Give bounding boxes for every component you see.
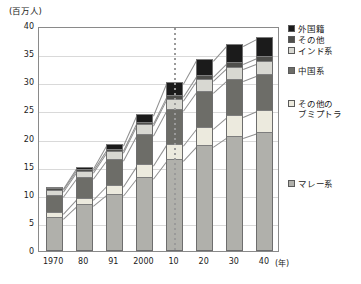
bar-segment — [136, 124, 153, 134]
bar-30 — [226, 27, 243, 251]
bar-segment — [76, 198, 93, 204]
bar-segment — [106, 144, 123, 149]
bar-segment — [46, 187, 63, 188]
bar-segment — [256, 110, 273, 132]
y-axis-tick-label: 15 — [8, 164, 34, 172]
bar-segment — [46, 188, 63, 190]
bar-segment — [106, 149, 123, 151]
bar-segment — [196, 79, 213, 91]
y-axis-tick-label: 35 — [8, 51, 34, 59]
connector-line — [213, 81, 227, 94]
y-axis-tick-label: 20 — [8, 136, 34, 144]
bar-segment — [226, 44, 243, 62]
legend-label: マレー系 — [298, 179, 333, 189]
y-axis-tick-label: 30 — [8, 79, 34, 87]
legend-label: 外国籍 — [298, 24, 324, 34]
connector-line — [243, 76, 256, 82]
bar-segment — [46, 195, 63, 212]
bar-segment — [256, 132, 273, 251]
bar-segment — [76, 204, 93, 251]
y-axis-tick-label: 40 — [8, 23, 34, 31]
x-axis-tick-label: 10 — [168, 257, 178, 266]
bar-segment — [226, 136, 243, 251]
projection-divider-line — [174, 28, 176, 251]
bar-segment — [76, 177, 93, 198]
x-axis-tick-label: 1970 — [43, 257, 63, 266]
connector-line — [93, 187, 107, 201]
bar-40 — [256, 27, 273, 251]
bar-segment — [226, 79, 243, 116]
connector-line — [183, 147, 197, 162]
bar-segment — [226, 115, 243, 136]
bar-segment — [196, 75, 213, 79]
x-axis-tick-label: 30 — [229, 257, 239, 266]
bar-segment — [106, 151, 123, 159]
legend-label: 中国系 — [298, 66, 324, 76]
bar-1970 — [46, 27, 63, 251]
connector-line — [213, 117, 227, 129]
legend-item: その他 — [288, 35, 324, 45]
bar-segment — [136, 164, 153, 176]
connector-line — [243, 39, 257, 47]
bar-segment — [76, 167, 93, 169]
bar-segment — [256, 37, 273, 56]
legend-item: 外国籍 — [288, 24, 324, 34]
bar-segment — [136, 114, 153, 121]
connector-line — [243, 63, 256, 69]
bar-20 — [196, 27, 213, 251]
legend-item: 中国系 — [288, 66, 324, 76]
legend-swatch-icon — [288, 180, 295, 187]
bar-segment — [256, 56, 273, 61]
bar-segment — [76, 171, 93, 177]
bar-80 — [76, 27, 93, 251]
population-stacked-bar-chart: (百万人) 4035302520151050 19708091200010203… — [0, 0, 361, 284]
x-axis-tick-label: 80 — [78, 257, 88, 266]
y-axis-tick-label: 25 — [8, 107, 34, 115]
legend-label: その他の — [298, 99, 333, 109]
y-axis-tick-label: 10 — [8, 192, 34, 200]
legend-swatch-icon — [288, 47, 295, 54]
bar-segment — [76, 169, 93, 171]
bar-segment — [196, 91, 213, 127]
bar-segment — [196, 59, 213, 75]
connector-line — [213, 46, 227, 61]
x-axis-tick-label: 2000 — [133, 257, 153, 266]
bar-2000 — [136, 27, 153, 251]
bar-segment — [46, 190, 63, 195]
legend-swatch-icon — [288, 25, 295, 32]
bar-segment — [196, 145, 213, 251]
bar-segment — [136, 134, 153, 164]
x-axis-tick-label: 20 — [199, 257, 209, 266]
bar-segment — [46, 212, 63, 217]
bar-segment — [226, 67, 243, 79]
y-axis: 4035302520151050 — [4, 0, 34, 284]
y-axis-tick-label: 5 — [8, 220, 34, 228]
legend-item: その他の — [288, 99, 333, 109]
legend-item: ブミプトラ — [288, 109, 342, 119]
bar-segment — [136, 177, 153, 251]
legend-swatch-icon — [288, 100, 295, 107]
bar-segment — [256, 61, 273, 73]
bar-segment — [196, 127, 213, 146]
legend-item: インド系 — [288, 46, 333, 56]
bar-segment — [226, 62, 243, 67]
connector-line — [123, 179, 137, 196]
connector-line — [243, 134, 256, 139]
x-axis-tick-label: 40 — [259, 257, 269, 266]
x-axis-tick-label: 91 — [108, 257, 118, 266]
legend-swatch-icon — [288, 36, 295, 43]
connector-line — [93, 146, 107, 170]
bar-segment — [136, 122, 153, 125]
legend-swatch-icon — [288, 67, 295, 74]
bar-91 — [106, 27, 123, 251]
bar-segment — [106, 185, 123, 194]
bar-segment — [106, 194, 123, 251]
legend-label: その他 — [298, 35, 324, 45]
legend-item: マレー系 — [288, 179, 333, 189]
legend-label: ブミプトラ — [298, 109, 342, 119]
plot-area — [38, 27, 279, 252]
connector-line — [183, 129, 197, 146]
y-axis-tick-label: 0 — [8, 248, 34, 256]
x-axis-unit-label: (年) — [275, 257, 289, 268]
bar-segment — [106, 159, 123, 185]
